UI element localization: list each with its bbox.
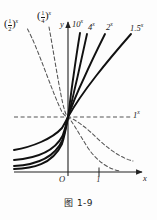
x-axis-label: x [143, 173, 147, 183]
y-axis-label: y [60, 19, 64, 29]
x-tick-label-1: 1 [97, 175, 101, 184]
curve-two-x [14, 34, 105, 160]
origin-label: O [59, 174, 65, 184]
exponential-functions-plot [0, 0, 157, 220]
figure-caption: 图 1-9 [0, 196, 157, 209]
curve-onefive-x [14, 34, 131, 150]
figure-container: (12)x (14)x y 10x 4x 2x 1.5x 1x O 1 x 图 … [0, 0, 157, 220]
